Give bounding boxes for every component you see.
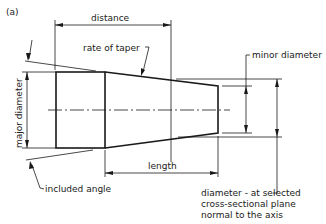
arrow-down-icon bbox=[141, 68, 145, 76]
selected-diameter-label-2: cross-sectional plane bbox=[201, 199, 296, 209]
arrow-up-icon bbox=[275, 79, 279, 87]
arrow-up-icon bbox=[244, 86, 248, 94]
arrow-right-icon bbox=[163, 23, 171, 27]
rate-of-taper-label: rate of taper bbox=[83, 43, 140, 53]
selected-diameter-label-1: diameter - at selected bbox=[201, 188, 301, 198]
selected-diameter-dimension: diameter - at selected cross-sectional p… bbox=[176, 79, 301, 220]
major-diameter-label: major diameter bbox=[14, 78, 24, 148]
minor-diameter-label: minor diameter bbox=[252, 50, 322, 60]
arrow-down-icon bbox=[244, 125, 248, 133]
distance-label: distance bbox=[91, 13, 130, 23]
length-label: length bbox=[148, 161, 177, 171]
figure-label: (a) bbox=[6, 7, 19, 17]
arrow-up-icon bbox=[25, 72, 29, 80]
arrow-down-icon bbox=[25, 140, 29, 148]
arrow-down-icon bbox=[26, 53, 31, 61]
arrow-down-icon bbox=[275, 129, 279, 137]
arrow-left-icon bbox=[55, 23, 63, 27]
taper-diagram: (a) distance rate of taper included angl… bbox=[0, 0, 326, 224]
minor-diameter-dimension: minor diameter bbox=[222, 50, 322, 133]
included-angle-callout: included angle bbox=[25, 40, 112, 194]
length-dimension: length bbox=[105, 136, 218, 177]
rate-of-taper-callout: rate of taper bbox=[83, 43, 149, 76]
selected-diameter-label-3: normal to the axis bbox=[201, 210, 283, 220]
distance-dimension: distance bbox=[55, 13, 171, 162]
arrow-left-icon bbox=[105, 171, 113, 175]
included-angle-label: included angle bbox=[45, 184, 112, 194]
arrow-right-icon bbox=[210, 171, 218, 175]
arrow-up-icon bbox=[29, 161, 34, 169]
